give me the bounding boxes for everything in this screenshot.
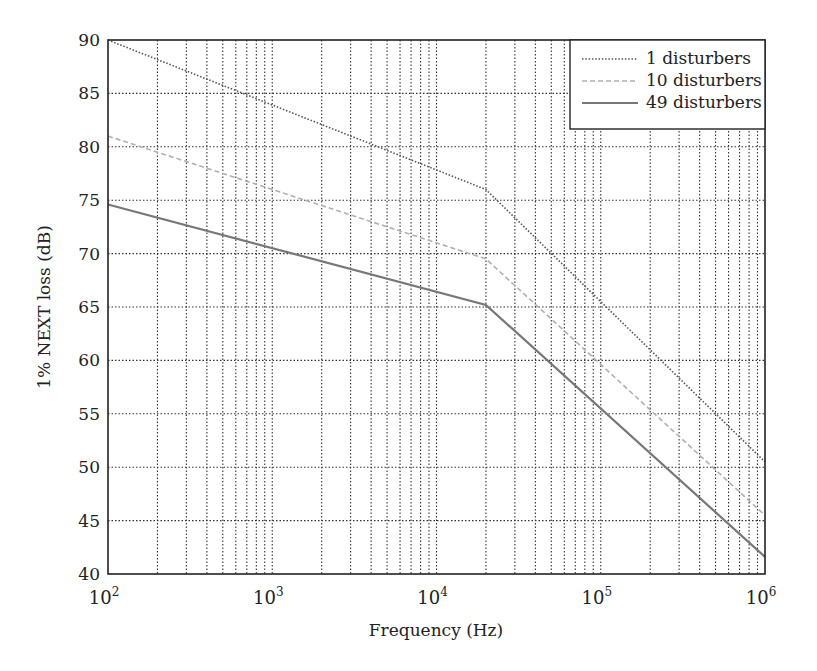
y-tick-label: 90 (78, 30, 100, 50)
y-tick-label: 45 (78, 511, 100, 531)
legend-label: 1 disturbers (646, 48, 751, 68)
next-loss-chart: 4045505560657075808590 102103104105106 F… (0, 0, 817, 671)
y-tick-label: 60 (78, 350, 100, 370)
legend-label: 10 disturbers (646, 70, 762, 90)
series-line (108, 136, 765, 515)
x-tick-labels: 102103104105106 (89, 585, 777, 608)
x-tick-label: 105 (581, 585, 612, 608)
x-axis-label: Frequency (Hz) (369, 620, 503, 640)
y-tick-label: 40 (78, 564, 100, 584)
y-tick-labels: 4045505560657075808590 (78, 30, 100, 584)
y-tick-label: 80 (78, 137, 100, 157)
x-tick-label: 103 (253, 585, 284, 608)
y-tick-label: 65 (78, 297, 100, 317)
y-tick-label: 55 (78, 404, 100, 424)
y-tick-label: 50 (78, 457, 100, 477)
x-tick-label: 102 (89, 585, 120, 608)
y-axis-label: 1% NEXT loss (dB) (34, 225, 54, 389)
legend: 1 disturbers10 disturbers49 disturbers (570, 40, 765, 129)
legend-label: 49 disturbers (646, 92, 762, 112)
y-tick-label: 70 (78, 244, 100, 264)
y-tick-label: 85 (78, 83, 100, 103)
x-tick-label: 104 (417, 585, 448, 608)
x-tick-label: 106 (746, 585, 777, 608)
y-tick-label: 75 (78, 190, 100, 210)
